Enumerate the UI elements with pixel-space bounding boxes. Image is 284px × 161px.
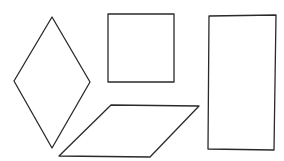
- rectangle-shape: [208, 15, 276, 150]
- square-shape: [108, 14, 174, 82]
- shapes-diagram: [0, 0, 284, 161]
- parallelogram-shape: [59, 105, 199, 157]
- rhombus-shape: [14, 17, 90, 148]
